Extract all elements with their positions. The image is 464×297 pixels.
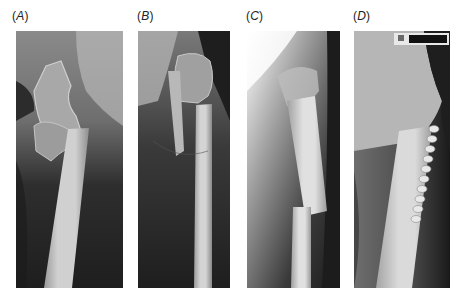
panel-label-b-letter: B <box>141 9 149 23</box>
panel-label-d-letter: D <box>357 9 366 23</box>
xray-panel-a <box>16 31 123 288</box>
panel-label-a-letter: A <box>16 9 24 23</box>
xray-panel-d <box>354 31 450 288</box>
panel-label-d: (D) <box>353 9 370 23</box>
panel-label-c-letter: C <box>250 9 259 23</box>
xray-panel-c <box>247 31 340 288</box>
panel-label-c: (C) <box>246 9 263 23</box>
panel-label-a: (A) <box>12 9 29 23</box>
xray-panel-b <box>138 31 230 288</box>
panel-label-b: (B) <box>137 9 154 23</box>
